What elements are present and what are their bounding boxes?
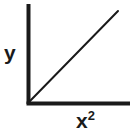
data-series-line — [30, 11, 118, 101]
y-axis-label: y — [4, 42, 16, 63]
x-axis-label: x2 — [76, 109, 95, 131]
x-axis-label-base: x — [76, 109, 88, 132]
plot-area — [0, 0, 135, 134]
x-axis-label-exponent: 2 — [88, 108, 95, 123]
line-graph-figure: y x2 — [0, 0, 135, 134]
